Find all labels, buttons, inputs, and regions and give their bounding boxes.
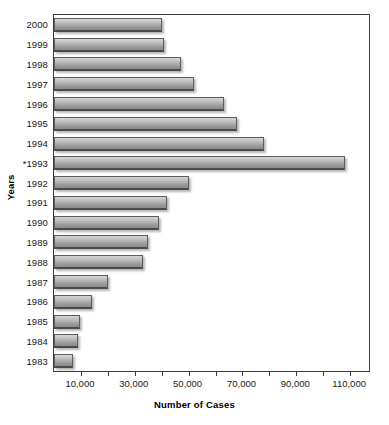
bar-row — [54, 235, 369, 249]
bar-1983 — [54, 354, 73, 368]
y-tick-label-1997: 1997 — [26, 79, 48, 90]
bar-2000 — [54, 18, 162, 32]
x-tick-label-90000: 90,000 — [281, 378, 310, 389]
x-tick-40000 — [162, 372, 163, 376]
bar-1993 — [54, 156, 345, 170]
bar-row — [54, 38, 369, 52]
bar-row — [54, 156, 369, 170]
y-tick-label-1986: 1986 — [26, 296, 48, 307]
bar-1985 — [54, 315, 80, 329]
bar-1990 — [54, 216, 159, 230]
y-axis-tick-labels: 2000199919981997199619951994*19931992199… — [0, 15, 51, 371]
bar-1989 — [54, 235, 148, 249]
y-tick-label-1998: 1998 — [26, 59, 48, 70]
x-tick-50000 — [189, 372, 190, 376]
x-tick-label-30000: 30,000 — [119, 378, 148, 389]
bar-1998 — [54, 57, 181, 71]
bar-1986 — [54, 295, 92, 309]
bar-1987 — [54, 275, 108, 289]
y-tick-label-1989: 1989 — [26, 237, 48, 248]
bar-1992 — [54, 176, 189, 190]
y-tick-label-1988: 1988 — [26, 257, 48, 268]
x-tick-100000 — [323, 372, 324, 376]
bar-1988 — [54, 255, 143, 269]
bar-row — [54, 196, 369, 210]
bar-row — [54, 275, 369, 289]
chart-title-remnant — [100, 0, 360, 6]
y-tick-label-1990: 1990 — [26, 217, 48, 228]
bar-row — [54, 216, 369, 230]
bars-layer — [54, 15, 369, 371]
x-tick-label-110000: 110,000 — [332, 378, 366, 389]
x-tick-10000 — [81, 372, 82, 376]
bar-row — [54, 137, 369, 151]
x-tick-label-70000: 70,000 — [227, 378, 256, 389]
bar-row — [54, 176, 369, 190]
bar-row — [54, 255, 369, 269]
y-tick-label-2000: 2000 — [26, 19, 48, 30]
bar-row — [54, 354, 369, 368]
y-tick-label-1987: 1987 — [26, 277, 48, 288]
bar-row — [54, 18, 369, 32]
y-tick-label-1994: 1994 — [26, 138, 48, 149]
x-axis-title: Number of Cases — [0, 399, 389, 410]
x-tick-20000 — [108, 372, 109, 376]
x-axis-ticks — [53, 372, 370, 377]
bar-1984 — [54, 334, 78, 348]
y-tick-label-1984: 1984 — [26, 336, 48, 347]
bar-row — [54, 97, 369, 111]
y-tick-label-1999: 1999 — [26, 39, 48, 50]
x-axis-tick-labels: 10,00030,00050,00070,00090,000110,000 — [0, 378, 389, 392]
y-tick-label-1996: 1996 — [26, 99, 48, 110]
x-tick-90000 — [296, 372, 297, 376]
bar-row — [54, 117, 369, 131]
bar-row — [54, 315, 369, 329]
bar-1996 — [54, 97, 224, 111]
bar-row — [54, 295, 369, 309]
bar-chart: Years 2000199919981997199619951994*19931… — [0, 0, 389, 425]
y-tick-label-1993: *1993 — [23, 158, 48, 169]
bar-row — [54, 77, 369, 91]
bar-1995 — [54, 117, 237, 131]
bar-1999 — [54, 38, 164, 52]
x-tick-30000 — [135, 372, 136, 376]
bar-1991 — [54, 196, 167, 210]
y-tick-label-1985: 1985 — [26, 316, 48, 327]
bar-row — [54, 57, 369, 71]
x-tick-60000 — [216, 372, 217, 376]
y-tick-label-1995: 1995 — [26, 118, 48, 129]
x-tick-70000 — [242, 372, 243, 376]
y-tick-label-1992: 1992 — [26, 178, 48, 189]
bar-row — [54, 334, 369, 348]
x-tick-80000 — [269, 372, 270, 376]
x-tick-label-50000: 50,000 — [173, 378, 202, 389]
bar-1994 — [54, 137, 264, 151]
x-tick-label-10000: 10,000 — [65, 378, 94, 389]
y-tick-label-1983: 1983 — [26, 356, 48, 367]
y-tick-label-1991: 1991 — [26, 197, 48, 208]
bar-1997 — [54, 77, 194, 91]
x-tick-110000 — [350, 372, 351, 376]
